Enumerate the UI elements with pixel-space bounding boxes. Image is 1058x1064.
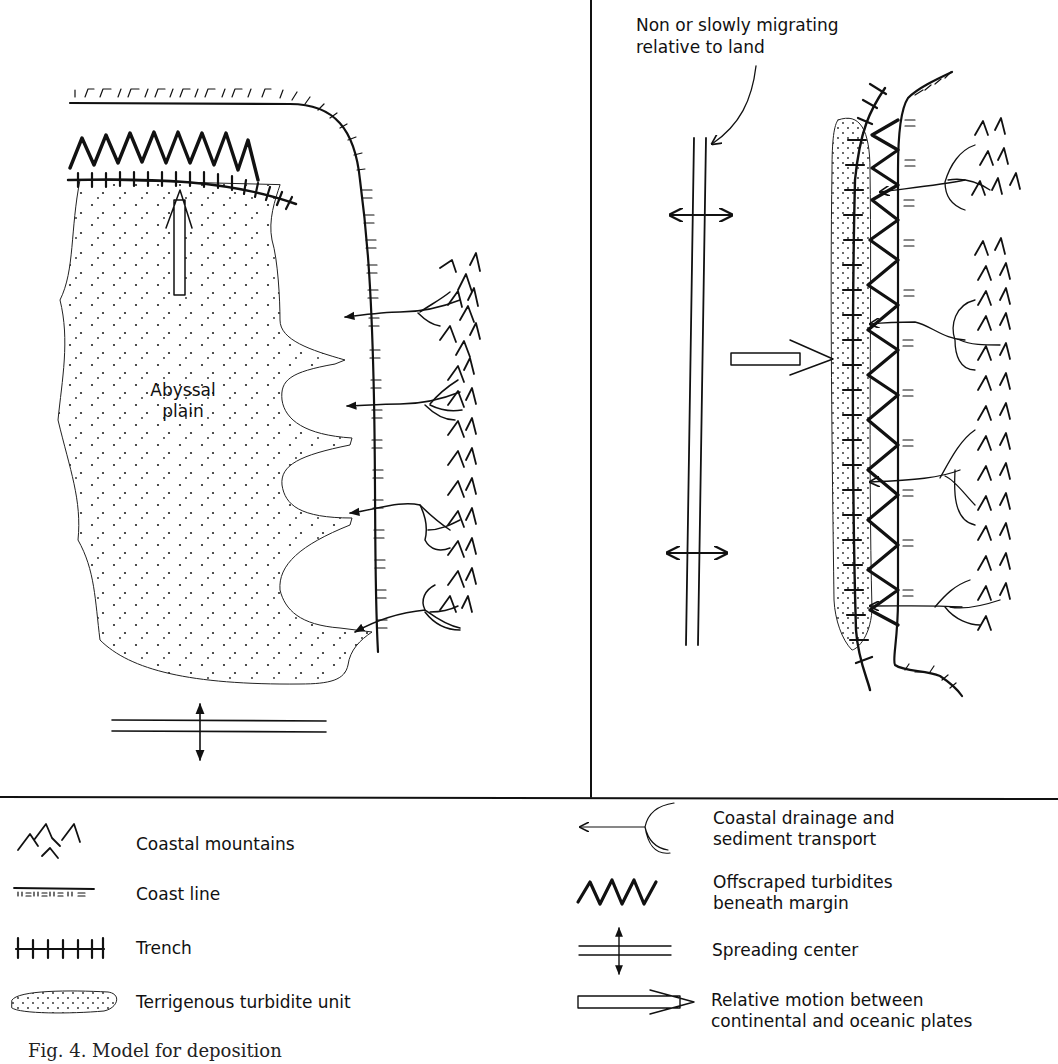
right-panel (667, 66, 1020, 696)
offscraped-turbidites (70, 132, 258, 180)
legend-label-spreading-center: Spreading center (712, 940, 858, 961)
ridge-annotation: Non or slowly migrating relative to land (636, 14, 839, 58)
legend-label-relative-motion-line1: Relative motion between (711, 990, 972, 1011)
coastal-mountains-icon (18, 824, 80, 858)
coastal-mountains (440, 253, 480, 612)
spreading-center-left (112, 704, 326, 760)
legend-label-relative-motion-line2: continental and oceanic plates (711, 1011, 972, 1032)
ridge-annotation-line2: relative to land (636, 36, 839, 58)
legend-icons (12, 803, 694, 1014)
abyssal-plain-region (58, 180, 372, 684)
legend-label-offscraped-line1: Offscraped turbidites (713, 872, 893, 893)
legend-label-trench: Trench (136, 938, 192, 959)
spreading-center-right (667, 138, 732, 645)
coastal-drainage (345, 292, 462, 632)
turbidite-unit-icon (12, 991, 117, 1013)
offscraped-turbidites-right (868, 120, 898, 625)
legend-label-coastal-mountains: Coastal mountains (136, 834, 295, 855)
turbidite-band (831, 118, 872, 650)
coast-line-icon (14, 888, 94, 896)
ridge-annotation-line1: Non or slowly migrating (636, 14, 839, 36)
drainage-arrow-icon (580, 803, 674, 853)
legend-label-offscraped-turbidites: Offscraped turbidites beneath margin (713, 872, 893, 914)
coastal-mountains-right (972, 118, 1020, 630)
legend-label-offscraped-line2: beneath margin (713, 893, 893, 914)
legend-label-turbidite-unit: Terrigenous turbidite unit (136, 992, 351, 1013)
abyssal-plain-label: Abyssal plain (128, 380, 238, 422)
spreading-center-icon (579, 928, 671, 974)
figure-caption: Fig. 4. Model for deposition (28, 1040, 282, 1061)
annotation-pointer (712, 66, 756, 144)
legend-label-coast-line: Coast line (136, 884, 220, 905)
legend-label-coastal-drainage-line1: Coastal drainage and (713, 808, 895, 829)
trench-icon (16, 938, 104, 958)
abyssal-label-line2: plain (128, 401, 238, 422)
abyssal-label-line1: Abyssal (128, 380, 238, 401)
legend-label-coastal-drainage: Coastal drainage and sediment transport (713, 808, 895, 850)
offscraped-zigzag-icon (578, 880, 656, 904)
left-panel (58, 89, 480, 760)
legend-label-coastal-drainage-line2: sediment transport (713, 829, 895, 850)
legend-label-relative-motion: Relative motion between continental and … (711, 990, 972, 1032)
plate-motion-arrow-right (731, 340, 833, 375)
plate-motion-arrow-icon (578, 990, 694, 1014)
